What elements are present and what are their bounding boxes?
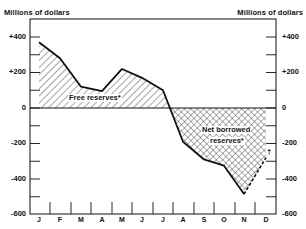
net-borrowed-label-line1: Net borrowed bbox=[201, 126, 251, 134]
month-label: M bbox=[117, 216, 127, 223]
month-label: J bbox=[137, 216, 147, 223]
y-tick-label-right: -200 bbox=[282, 139, 306, 147]
month-label: N bbox=[239, 216, 249, 223]
month-label: J bbox=[34, 216, 44, 223]
month-label: O bbox=[219, 216, 229, 223]
y-tick-label-left: +400 bbox=[2, 33, 26, 41]
plot-area bbox=[30, 19, 276, 214]
y-tick-label-right: -600 bbox=[282, 210, 306, 218]
y-tick-label-left: -600 bbox=[2, 210, 26, 218]
month-label: J bbox=[158, 216, 168, 223]
net-borrowed-label-line2: reserves* bbox=[209, 137, 245, 145]
month-label: D bbox=[261, 216, 271, 223]
free-reserves-label: Free reserves* bbox=[68, 94, 122, 102]
month-label: F bbox=[55, 216, 65, 223]
month-label: M bbox=[76, 216, 86, 223]
y-tick-label-right: +200 bbox=[282, 68, 306, 76]
month-label: S bbox=[199, 216, 209, 223]
chart-canvas bbox=[0, 0, 306, 229]
y-tick-label-right: -400 bbox=[282, 175, 306, 183]
y-tick-label-left: +200 bbox=[2, 68, 26, 76]
month-label: A bbox=[97, 216, 107, 223]
y-tick-label-right: +400 bbox=[282, 33, 306, 41]
y-tick-label-left: -200 bbox=[2, 139, 26, 147]
y-tick-label-left: -400 bbox=[2, 175, 26, 183]
month-label: A bbox=[178, 216, 188, 223]
y-tick-label-left: 0 bbox=[2, 104, 26, 112]
net-borrowed-area bbox=[170, 108, 266, 194]
y-tick-label-right: 0 bbox=[282, 104, 306, 112]
dagger-mark: † bbox=[266, 148, 272, 156]
